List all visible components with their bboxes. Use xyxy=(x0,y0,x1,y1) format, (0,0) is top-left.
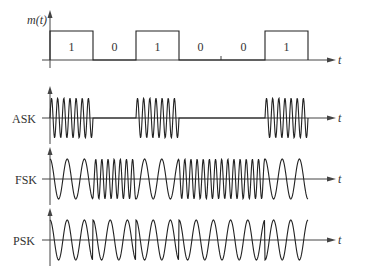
bit-label: 1 xyxy=(155,40,161,54)
arrow-up-icon xyxy=(48,208,53,216)
arrow-right-icon xyxy=(327,58,336,63)
t-axis-label-psk: t xyxy=(338,233,342,247)
bit-label: 0 xyxy=(241,40,247,54)
psk-waveform xyxy=(50,220,308,260)
arrow-right-icon xyxy=(327,116,336,121)
modulation-diagram: m(t) ASK FSK PSK t t t t 101001 xyxy=(0,0,368,276)
t-axis-label-ask: t xyxy=(338,111,342,125)
bit-label: 1 xyxy=(284,40,290,54)
message-waveform xyxy=(50,31,308,60)
t-axis-label-message: t xyxy=(338,53,342,67)
psk-label: PSK xyxy=(13,234,35,248)
arrow-up-icon xyxy=(48,147,53,155)
fsk-label: FSK xyxy=(15,173,37,187)
modulation-figure: m(t) ASK FSK PSK t t t t 101001 xyxy=(0,0,368,276)
axes xyxy=(42,10,336,266)
arrow-right-icon xyxy=(327,238,336,243)
message-label: m(t) xyxy=(27,13,47,27)
bit-label: 0 xyxy=(198,40,204,54)
bit-label: 1 xyxy=(69,40,75,54)
arrow-up-icon xyxy=(48,86,53,94)
arrow-right-icon xyxy=(327,177,336,182)
arrow-up-icon xyxy=(48,10,53,18)
waveforms xyxy=(50,31,308,260)
ask-label: ASK xyxy=(12,112,36,126)
t-axis-label-fsk: t xyxy=(338,172,342,186)
bit-label: 0 xyxy=(112,40,118,54)
